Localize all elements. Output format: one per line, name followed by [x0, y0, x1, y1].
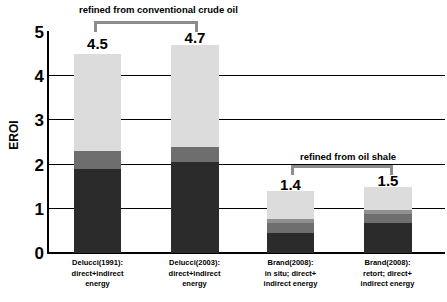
bar-4 — [364, 187, 412, 253]
y-tick-4: 4 — [22, 68, 44, 85]
bracket-top-bar — [94, 21, 198, 24]
annotation-bracket-oil-shale — [291, 165, 393, 175]
annotation-label-conventional-crude: refined from conventional crude oil — [79, 4, 264, 16]
category-label-3-line-1: Brand(2008): — [248, 258, 333, 269]
bar-1-segment-2-mid-gray — [74, 151, 121, 169]
bar-3-segment-3-light-gray — [267, 219, 314, 223]
bar-value-3: 1.4 — [267, 177, 314, 192]
category-label-2-line-2: direct+indirect — [152, 269, 237, 280]
bar-3 — [267, 191, 314, 253]
bar-2-segment-2-mid-gray — [171, 147, 219, 162]
bar-value-4: 1.5 — [364, 173, 412, 188]
annotation-bracket-conventional-crude — [94, 21, 198, 32]
y-tick-3: 3 — [22, 112, 44, 129]
y-axis-title: EROI — [7, 105, 21, 165]
bar-3-segment-4-pale — [267, 191, 314, 218]
plot-area — [47, 31, 445, 253]
bar-2 — [171, 45, 219, 253]
category-label-1-line-1: Delucci(1991): — [55, 258, 140, 269]
y-tick-2: 2 — [22, 157, 44, 174]
bracket-right-tick — [390, 165, 393, 175]
y-tick-5: 5 — [22, 24, 44, 41]
bar-1-segment-1-dark — [74, 169, 121, 253]
y-axis-line — [47, 31, 49, 254]
category-label-2: Delucci(2003): direct+indirect energy — [152, 258, 237, 290]
category-label-3-line-2: in situ; direct+ — [248, 269, 333, 280]
category-label-2-line-3: energy — [152, 279, 237, 290]
bar-1 — [74, 54, 121, 253]
annotation-label-oil-shale: refined from oil shale — [300, 151, 430, 163]
bar-3-segment-1-dark — [267, 233, 314, 253]
bar-4-segment-2-mid-gray — [364, 214, 412, 223]
category-label-4-line-3: indirect energy — [345, 279, 430, 290]
category-label-4-line-2: retort; direct+ — [345, 269, 430, 280]
bar-2-segment-1-dark — [171, 162, 219, 253]
bar-4-segment-4-pale — [364, 187, 412, 210]
bar-value-1: 4.5 — [74, 36, 121, 51]
category-label-3-line-3: indirect energy — [248, 279, 333, 290]
bar-2-segment-4-pale — [171, 45, 219, 147]
category-label-4: Brand(2008): retort; direct+ indirect en… — [345, 258, 430, 290]
bar-4-segment-1-dark — [364, 223, 412, 253]
chart-container: EROI 5 4 3 2 1 0 4.5 4.7 1.4 1.5 Delucci… — [0, 0, 447, 302]
category-label-1: Delucci(1991): direct+indirect energy — [55, 258, 140, 290]
bracket-left-tick — [94, 21, 97, 32]
y-tick-0: 0 — [22, 245, 44, 262]
category-label-1-line-3: energy — [55, 279, 140, 290]
bracket-left-tick — [291, 165, 294, 175]
bar-value-2: 4.7 — [171, 30, 219, 45]
y-tick-1: 1 — [22, 201, 44, 218]
category-label-3: Brand(2008): in situ; direct+ indirect e… — [248, 258, 333, 290]
category-label-4-line-1: Brand(2008): — [345, 258, 430, 269]
bracket-top-bar — [291, 165, 393, 168]
category-label-1-line-2: direct+indirect — [55, 269, 140, 280]
bar-3-segment-2-mid-gray — [267, 223, 314, 233]
bar-4-segment-3-light-gray — [364, 210, 412, 214]
bar-1-segment-4-pale — [74, 54, 121, 151]
category-label-2-line-1: Delucci(2003): — [152, 258, 237, 269]
bracket-right-tick — [195, 21, 198, 32]
